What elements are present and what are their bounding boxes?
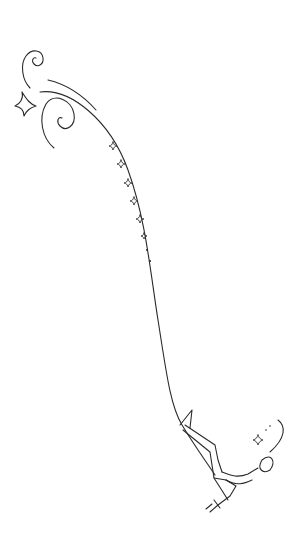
figure-star-icon: [253, 435, 263, 445]
trail-dot: [149, 260, 151, 262]
star-trail: [109, 142, 151, 262]
hanging-figure: [180, 410, 283, 512]
line-art-illustration: Black line-art drawing on white: a long …: [0, 0, 305, 540]
small-star-icon: [117, 160, 125, 168]
trail-dot: [146, 249, 148, 251]
main-ribbon-curve: [40, 92, 215, 475]
ribbon-short-stroke: [48, 80, 96, 110]
small-star-icon: [124, 179, 132, 187]
top-spiral: [23, 51, 44, 88]
small-star-icon: [141, 233, 147, 239]
drawing-svg: [0, 0, 305, 540]
large-star-icon: [15, 92, 36, 116]
bottom-spiral: [42, 98, 74, 148]
